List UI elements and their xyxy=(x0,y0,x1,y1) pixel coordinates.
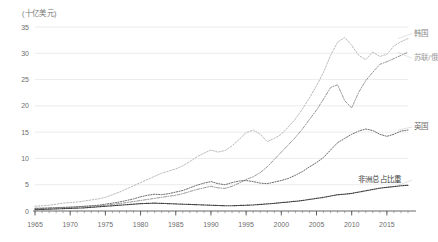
x-axis-tick-label: 1965 xyxy=(27,221,43,228)
series-line xyxy=(35,38,408,207)
x-axis-tick-label: 1975 xyxy=(98,221,114,228)
y-axis-tick-label: 25 xyxy=(21,76,29,83)
y-axis-tick-label: 20 xyxy=(21,102,29,109)
y-axis-tick-label: 30 xyxy=(21,50,29,57)
x-axis-tick-label: 1990 xyxy=(203,221,219,228)
x-axis-tick-label: 1970 xyxy=(62,221,78,228)
x-axis-tick-label: 2005 xyxy=(309,221,325,228)
y-axis-tick-label: 5 xyxy=(25,181,29,188)
x-axis-tick-label: 1995 xyxy=(238,221,254,228)
series-label-leader xyxy=(398,127,412,130)
series-group xyxy=(35,34,412,210)
x-axis-tick-label: 1985 xyxy=(168,221,184,228)
series-label: 非洲总占比重 xyxy=(358,173,401,184)
x-axis-tick-label: 1980 xyxy=(133,221,149,228)
x-axis-group xyxy=(33,211,416,213)
series-label: 苏联/俄 xyxy=(414,51,438,62)
gridlines-group xyxy=(35,27,408,185)
x-axis-tick-label: 2010 xyxy=(344,221,360,228)
x-axis-tick-label: 2000 xyxy=(274,221,290,228)
y-axis-ticks-group: 05101520253035 xyxy=(21,24,29,215)
y-axis-tick-label: 35 xyxy=(21,24,29,31)
series-label: 英国 xyxy=(414,120,428,131)
series-line xyxy=(35,129,408,208)
x-axis-tick-label: 2015 xyxy=(379,221,395,228)
y-axis-tick-label: 10 xyxy=(21,155,29,162)
y-axis-tick-label: 15 xyxy=(21,129,29,136)
x-axis-ticks-group: 1965197019751980198519901995200020052010… xyxy=(27,211,395,228)
series-label-leader xyxy=(398,34,412,39)
series-label: 韩国 xyxy=(414,27,428,38)
y-axis-tick-label: 0 xyxy=(25,208,29,215)
